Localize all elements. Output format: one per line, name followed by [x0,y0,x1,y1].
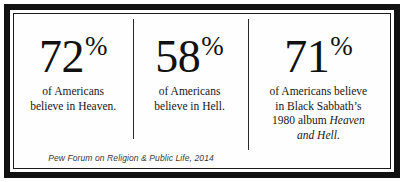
caption-line-2: believe in Hell. [137,99,241,114]
infographic-page: 72% of Americans believe in Heaven. 58% … [0,0,404,182]
infographic-content: 72% of Americans believe in Heaven. 58% … [14,14,390,168]
source-attribution: Pew Forum on Religion & Public Life, 201… [14,153,248,164]
album-title-part-2: and Hell. [297,129,340,141]
caption-line-3: 1980 album Heaven [253,113,384,128]
stat-column-heaven: 72% of Americans believe in Heaven. [14,14,132,113]
percent-symbol-heaven: % [85,31,108,61]
stat-caption-heaven: of Americans believe in Heaven. [14,84,132,113]
caption-line-3-plain: 1980 album [272,114,330,126]
column-divider-1 [133,19,134,139]
stat-caption-black-sabbath: of Americans believe in Black Sabbath’s … [247,84,390,142]
stat-value-hell: 58% [132,20,246,83]
stat-number-hell: 58 [155,31,200,82]
stat-column-black-sabbath: 71% of Americans believe in Black Sabbat… [247,14,390,142]
stat-caption-hell: of Americans believe in Hell. [132,84,246,113]
caption-line-1: of Americans [137,84,241,99]
percent-symbol-black-sabbath: % [330,31,353,61]
stat-value-black-sabbath: 71% [247,20,390,83]
caption-line-1: of Americans believe [253,84,384,99]
caption-line-2: in Black Sabbath’s [253,99,384,114]
statistics-columns: 72% of Americans believe in Heaven. 58% … [14,14,390,154]
stat-number-heaven: 72 [39,31,84,82]
stat-value-heaven: 72% [14,20,132,83]
album-title-part-1: Heaven [330,114,365,126]
caption-line-4: and Hell. [253,128,384,143]
inner-border-rule: 72% of Americans believe in Heaven. 58% … [13,13,391,169]
stat-column-hell: 58% of Americans believe in Hell. [132,14,246,113]
column-divider-2 [248,19,249,150]
outer-border-frame: 72% of Americans believe in Heaven. 58% … [4,4,400,178]
caption-line-2: believe in Heaven. [19,99,127,114]
stat-number-black-sabbath: 71 [284,31,329,82]
caption-line-1: of Americans [19,84,127,99]
percent-symbol-hell: % [201,31,224,61]
